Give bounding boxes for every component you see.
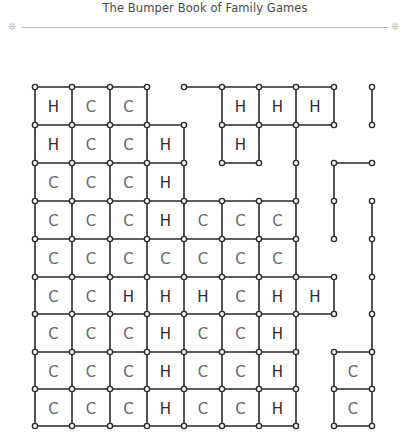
board-dot (107, 311, 112, 316)
board-dot (181, 122, 186, 127)
cell-letter-c: C (86, 250, 96, 268)
board-dot (369, 198, 374, 203)
cell-letter-c: C (198, 250, 208, 268)
cell-letter-c: C (86, 288, 96, 306)
cell-letter-c: C (198, 212, 208, 230)
board-dot (107, 349, 112, 354)
board-dot (144, 423, 149, 428)
board-dot (331, 423, 336, 428)
cell-letter-c: C (235, 212, 245, 230)
cell-letter-c: C (86, 98, 96, 116)
cell-letter-c: C (235, 325, 245, 343)
board-dot (144, 84, 149, 89)
cell-letter-c: C (198, 363, 208, 381)
cell-letter-h: H (272, 363, 283, 381)
board-dot (144, 160, 149, 165)
game-board: HCCHHHHCCHHCCCHCCCHCCCCCCCCCCCCHHHCHHCCC… (0, 0, 410, 446)
board-dot (256, 349, 261, 354)
board-dot (369, 274, 374, 279)
cell-letter-c: C (272, 212, 282, 230)
board-dot (256, 423, 261, 428)
cell-letter-c: C (123, 325, 133, 343)
cell-letter-c: C (235, 250, 245, 268)
cell-letter-h: H (48, 98, 59, 116)
board-dot (256, 84, 261, 89)
cell-letter-c: C (86, 136, 96, 154)
board-dot (256, 386, 261, 391)
board-dot (32, 236, 37, 241)
cell-letter-h: H (272, 400, 283, 418)
board-dot (293, 122, 298, 127)
board-dot (256, 122, 261, 127)
board-dot (219, 423, 224, 428)
board-dot (293, 274, 298, 279)
board-dot (219, 160, 224, 165)
board-dot (69, 160, 74, 165)
cell-letter-c: C (198, 400, 208, 418)
board-dot (69, 349, 74, 354)
cell-letter-c: C (235, 363, 245, 381)
board-dot (69, 198, 74, 203)
board-dot (144, 311, 149, 316)
cell-letter-c: C (235, 400, 245, 418)
board-dot (293, 423, 298, 428)
board-dot (181, 423, 186, 428)
board-dot (32, 84, 37, 89)
board-dot (107, 236, 112, 241)
cell-letter-c: C (123, 136, 133, 154)
board-dot (181, 198, 186, 203)
board-dot (69, 423, 74, 428)
board-dot (369, 349, 374, 354)
cell-letter-c: C (123, 363, 133, 381)
board-dot (331, 84, 336, 89)
board-dot (107, 198, 112, 203)
board-dot (256, 160, 261, 165)
board-dot (181, 160, 186, 165)
board-dot (219, 274, 224, 279)
board-dot (144, 236, 149, 241)
board-dot (219, 122, 224, 127)
board-dot (293, 236, 298, 241)
board-dot (369, 236, 374, 241)
cell-letter-c: C (123, 98, 133, 116)
cell-letter-h: H (160, 174, 171, 192)
board-dot (107, 274, 112, 279)
board-dot (293, 84, 298, 89)
board-dot (107, 84, 112, 89)
cell-letter-h: H (309, 98, 320, 116)
cell-letter-c: C (272, 250, 282, 268)
board-dot (107, 122, 112, 127)
board-dot (331, 198, 336, 203)
board-dot (331, 160, 336, 165)
board-dot (219, 311, 224, 316)
board-dot (331, 274, 336, 279)
board-dot (219, 236, 224, 241)
cell-letter-c: C (48, 288, 58, 306)
board-dot (219, 349, 224, 354)
board-dot (369, 160, 374, 165)
board-dot (144, 386, 149, 391)
board-dot (181, 236, 186, 241)
board-dot (69, 236, 74, 241)
cell-letter-c: C (86, 174, 96, 192)
cell-letter-c: C (86, 325, 96, 343)
board-dot (69, 386, 74, 391)
board-dot (144, 198, 149, 203)
cell-letter-c: C (348, 400, 358, 418)
board-dot (369, 386, 374, 391)
board-dot (369, 423, 374, 428)
board-dot (144, 349, 149, 354)
board-dot (181, 311, 186, 316)
cell-letter-h: H (160, 136, 171, 154)
board-dot (256, 311, 261, 316)
board-dot (256, 198, 261, 203)
cell-letter-h: H (123, 288, 134, 306)
board-dot (32, 274, 37, 279)
cell-letter-c: C (123, 212, 133, 230)
board-dot (144, 274, 149, 279)
board-dot (32, 160, 37, 165)
cell-letter-c: C (48, 325, 58, 343)
board-dot (107, 160, 112, 165)
cell-letter-h: H (160, 288, 171, 306)
cell-letter-h: H (48, 136, 59, 154)
